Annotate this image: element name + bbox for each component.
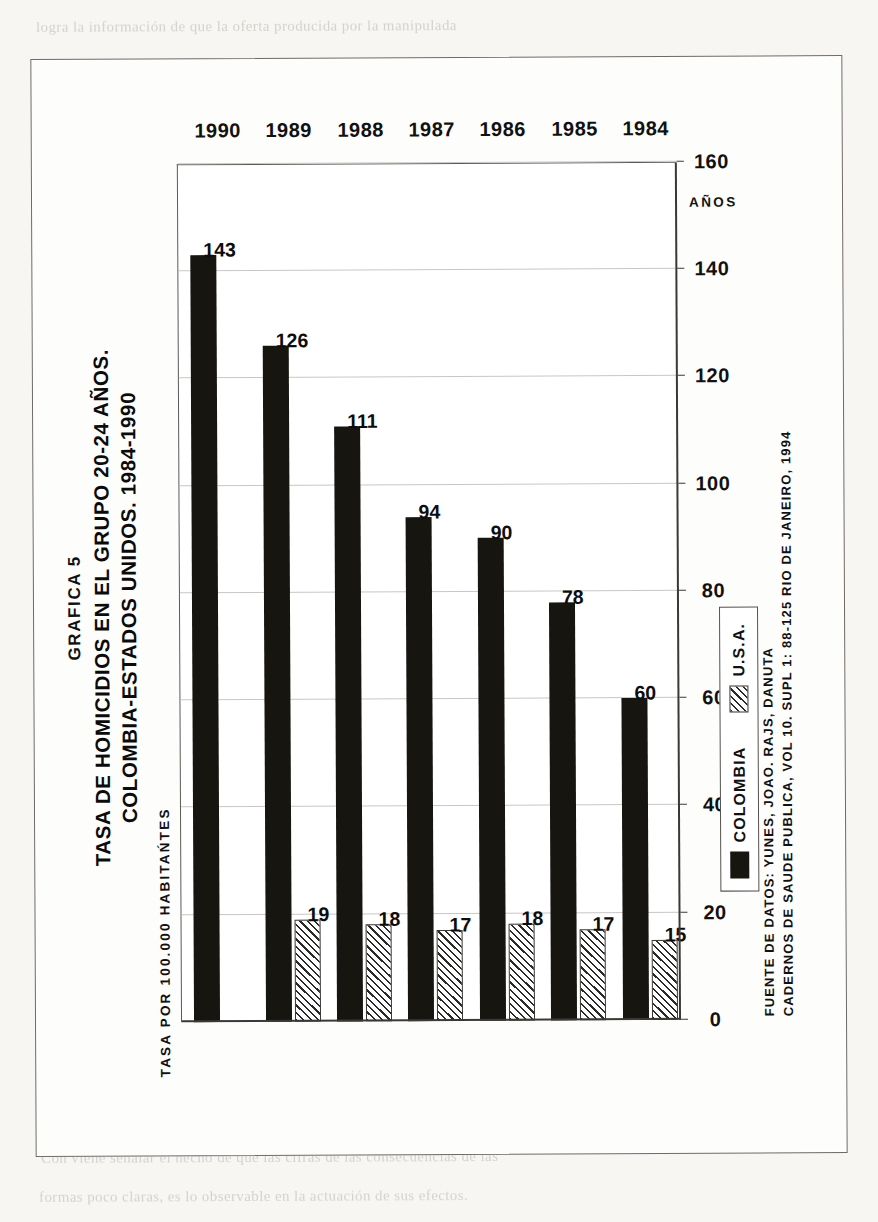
ghost-text-line: logra la información de que la oferta pr… xyxy=(36,17,457,36)
axis-tick-label: 80 xyxy=(702,579,725,602)
bar-value-label-colombia: 78 xyxy=(562,586,584,609)
category-label: 1987 xyxy=(408,118,455,141)
bar-colombia xyxy=(262,346,291,1022)
bar-group: 9417 xyxy=(392,164,468,1021)
bar-usa xyxy=(580,929,606,1020)
axis-tick xyxy=(678,375,685,376)
figure-title-line-2: COLOMBIA-ESTADOS UNIDOS. 1984-1990 xyxy=(112,77,144,1137)
plot-area: 14312619111189417901878176015 0204060801… xyxy=(177,162,681,1022)
figure-number: GRAFICA 5 xyxy=(62,78,87,1138)
bar-colombia xyxy=(334,426,363,1021)
bar-usa xyxy=(294,920,320,1022)
bar-value-label-usa: 15 xyxy=(664,923,686,946)
scanned-page: logra la información de que la oferta pr… xyxy=(0,0,878,1222)
bar-colombia xyxy=(549,602,577,1020)
chart-legend: COLOMBIA U.S.A. xyxy=(719,607,759,892)
source-line-1: FUENTE DE DATOS: YUNES, JOAO. RAJS, DANU… xyxy=(760,647,777,1017)
bar-colombia xyxy=(621,698,649,1020)
bar-usa xyxy=(437,930,463,1021)
axis-tick-label: 20 xyxy=(703,901,726,924)
axis-tick xyxy=(679,590,686,591)
bar-group: 143 xyxy=(178,165,254,1022)
bar-chart-figure: GRAFICA 5 TASA DE HOMICIDIOS EN EL GRUPO… xyxy=(56,74,821,1138)
axis-tick xyxy=(680,804,687,805)
axis-tick-label: 100 xyxy=(695,472,730,495)
x-axis-title: AÑOS xyxy=(689,195,738,210)
legend-item-usa: U.S.A. xyxy=(729,623,748,713)
axis-tick xyxy=(677,268,684,269)
category-label: 1986 xyxy=(480,118,527,141)
bar-group: 6015 xyxy=(606,163,682,1020)
y-axis-title: TASA POR 100.000 HABITAŃTES xyxy=(157,807,173,1077)
legend-label-usa: U.S.A. xyxy=(730,623,748,677)
bar-colombia xyxy=(478,538,506,1021)
source-line-2: CADERNOS DE SAUDE PUBLICA, VOL 10. SUPL … xyxy=(778,431,796,1017)
category-label: 1990 xyxy=(194,119,241,142)
legend-swatch-colombia-icon xyxy=(730,851,749,878)
bar-group: 9018 xyxy=(464,164,540,1021)
bar-usa xyxy=(651,939,677,1020)
bar-value-label-colombia: 60 xyxy=(634,682,656,705)
plot-inner: 14312619111189417901878176015 xyxy=(178,163,681,1022)
axis-tick xyxy=(679,697,686,698)
bar-colombia xyxy=(406,517,434,1021)
legend-swatch-usa-icon xyxy=(729,686,748,713)
bar-group: 7817 xyxy=(535,163,611,1020)
axis-tick-label: 120 xyxy=(695,365,730,388)
axis-tick xyxy=(677,161,684,162)
axis-tick-label: 0 xyxy=(710,1008,722,1031)
category-label: 1985 xyxy=(551,117,598,140)
bar-colombia xyxy=(190,255,220,1022)
bar-group: 11118 xyxy=(321,164,397,1021)
bar-usa xyxy=(508,924,534,1021)
figure-frame: GRAFICA 5 TASA DE HOMICIDIOS EN EL GRUPO… xyxy=(30,55,847,1157)
axis-tick xyxy=(681,1019,688,1020)
axis-tick xyxy=(680,912,687,913)
category-label: 1989 xyxy=(266,119,313,142)
bar-value-label-colombia: 90 xyxy=(490,522,512,545)
axis-tick-label: 160 xyxy=(694,150,729,173)
bar-value-label-colombia: 126 xyxy=(275,329,308,352)
bar-value-label-colombia: 94 xyxy=(419,500,441,523)
bar-group: 12619 xyxy=(249,165,325,1022)
axis-tick xyxy=(678,483,685,484)
figure-title-block: GRAFICA 5 TASA DE HOMICIDIOS EN EL GRUPO… xyxy=(62,77,144,1137)
legend-item-colombia: COLOMBIA xyxy=(730,747,750,879)
source-note: FUENTE DE DATOS: YUNES, JOAO. RAJS, DANU… xyxy=(758,431,799,1017)
category-label: 1988 xyxy=(337,119,384,142)
bar-value-label-colombia: 111 xyxy=(347,410,378,433)
bar-value-label-colombia: 143 xyxy=(203,239,236,262)
ghost-text-line: formas poco claras, es lo observable en … xyxy=(39,1187,468,1206)
axis-tick-label: 140 xyxy=(694,257,729,280)
category-label: 1984 xyxy=(623,117,670,140)
legend-label-colombia: COLOMBIA xyxy=(730,747,748,843)
bar-usa xyxy=(366,925,392,1022)
